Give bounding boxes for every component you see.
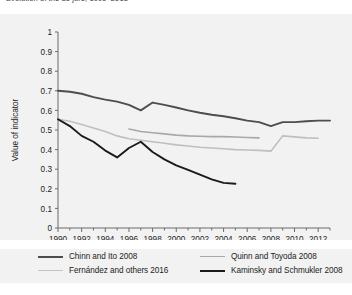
y-tick-label: 0.1 — [41, 205, 53, 214]
series-line — [129, 129, 259, 138]
x-tick-label: 2010 — [285, 235, 304, 241]
y-axis-label-text: Value of indicator — [11, 98, 20, 161]
legend-item-label: Quinn and Toyoda 2008 — [231, 252, 317, 261]
x-tick-label: 2012 — [309, 235, 328, 241]
legend-item: Chinn and Ito 2008 — [38, 250, 137, 263]
y-tick-label: 0.4 — [41, 146, 53, 155]
series-lines — [58, 91, 330, 184]
series-line — [58, 91, 330, 126]
x-tick-label: 2000 — [167, 235, 186, 241]
x-tick-label: 2002 — [191, 235, 210, 241]
x-axis: 1990199219941996199820002002200420062008… — [49, 228, 330, 240]
legend-swatch-icon — [38, 256, 63, 258]
y-tick-label: 0.3 — [41, 165, 53, 174]
y-tick-label: 0 — [47, 224, 52, 233]
x-tick-label: 1994 — [96, 235, 115, 241]
y-tick-label: 1 — [47, 28, 52, 37]
y-tick-label: 0.5 — [41, 126, 53, 135]
y-tick-label: 0.9 — [41, 48, 53, 57]
x-tick-label: 2006 — [238, 235, 257, 241]
legend-item: Quinn and Toyoda 2008 — [200, 250, 317, 263]
legend-swatch-icon — [200, 270, 225, 272]
legend-item-label: Fernández and others 2016 — [69, 266, 168, 275]
x-tick-label: 2004 — [214, 235, 233, 241]
x-tick-label: 2008 — [262, 235, 281, 241]
page-title: Evolution of the de jure, 1990–2013 — [6, 0, 128, 3]
chart-figure: Evolution of the de jure, 1990–2013 00.1… — [0, 0, 352, 295]
y-axis: 00.10.20.30.40.50.60.70.80.91 — [41, 28, 58, 233]
legend-swatch-icon — [38, 270, 63, 271]
x-tick-label: 1992 — [73, 235, 92, 241]
legend-swatch-icon — [200, 256, 225, 257]
chart-canvas: 00.10.20.30.40.50.60.70.80.91 1990199219… — [0, 14, 352, 240]
y-tick-label: 0.7 — [41, 87, 53, 96]
x-tick-label: 1996 — [120, 235, 139, 241]
y-tick-label: 0.8 — [41, 67, 53, 76]
legend-item: Kaminsky and Schmukler 2008 — [200, 264, 343, 277]
legend-item: Fernández and others 2016 — [38, 264, 168, 277]
chart-legend: Chinn and Ito 2008Quinn and Toyoda 2008F… — [0, 249, 352, 283]
x-tick-label: 1998 — [143, 235, 162, 241]
legend-item-label: Chinn and Ito 2008 — [69, 252, 137, 261]
y-axis-title: Value of indicator — [11, 98, 20, 161]
y-tick-label: 0.6 — [41, 107, 53, 116]
legend-item-label: Kaminsky and Schmukler 2008 — [231, 266, 343, 275]
plot-area: 00.10.20.30.40.50.60.70.80.91 1990199219… — [0, 14, 352, 240]
series-line — [58, 119, 235, 183]
x-tick-label: 1990 — [49, 235, 68, 241]
y-tick-label: 0.2 — [41, 185, 53, 194]
chart-title-strip: Evolution of the de jure, 1990–2013 — [0, 0, 352, 7]
